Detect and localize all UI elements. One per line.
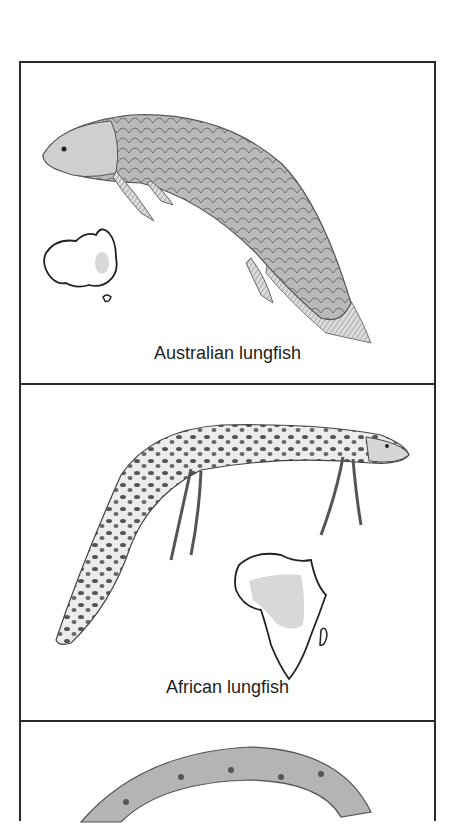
third-lungfish-illustration (21, 722, 436, 827)
caption-african-lungfish: African lungfish (21, 677, 434, 698)
caption-australian-lungfish: Australian lungfish (21, 343, 434, 364)
panel-third-lungfish (21, 722, 434, 827)
africa-map-icon (235, 554, 327, 679)
panel-australian-lungfish: Australian lungfish (21, 63, 434, 385)
australian-lungfish-illustration (21, 63, 436, 383)
african-lungfish-illustration (21, 385, 436, 720)
figure-frame: Australian lungfish (19, 61, 436, 821)
panel-african-lungfish: African lungfish (21, 385, 434, 722)
australia-map-icon (44, 229, 117, 301)
